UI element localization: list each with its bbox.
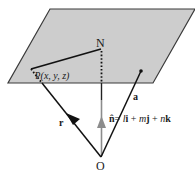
label-origin: O [96, 159, 105, 173]
eq-sign: = [115, 113, 123, 124]
eq-k: k [165, 113, 171, 124]
plane-normal-diagram: N P(x, y, z) r a n̂= li + mj + nk O [0, 0, 195, 174]
r-arrow-icon [66, 113, 80, 125]
a-endpoint-dot [139, 69, 143, 73]
eq-m: m [139, 113, 146, 124]
eq-plus-2: + [149, 113, 160, 124]
label-p-point: P(x, y, z) [35, 70, 70, 82]
normal-equation: n̂= li + mj + nk [109, 113, 171, 124]
label-p-coords: (x, y, z) [41, 70, 71, 82]
n-hat-arrow-icon [97, 116, 106, 128]
label-a-vector: a [133, 91, 138, 102]
eq-plus-1: + [128, 113, 139, 124]
label-n-point: N [96, 36, 105, 50]
label-r-vector: r [59, 117, 64, 128]
